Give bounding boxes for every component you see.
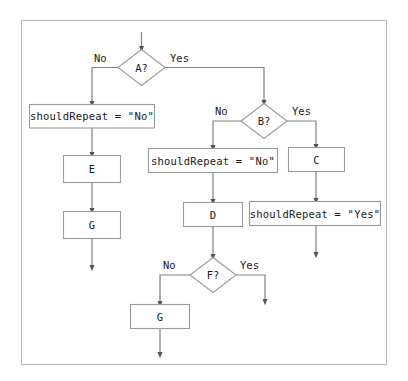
edge-label-a-no: No xyxy=(94,52,107,64)
shape-rect-g-left xyxy=(64,212,121,239)
edge-label-f-no: No xyxy=(163,259,176,271)
shape-rect-c xyxy=(289,148,345,172)
edge-label-b-no: No xyxy=(215,105,228,117)
shape-diamond-a xyxy=(118,50,165,86)
shape-rect-set-yes xyxy=(250,202,381,226)
flowchart-page: A? shouldRepeat = "No" E G B? shouldRepe… xyxy=(0,0,408,381)
edge-b-no xyxy=(213,121,241,148)
shape-diamond-f xyxy=(190,258,236,293)
shape-rect-set-no-left xyxy=(30,105,155,129)
edge-f-yes xyxy=(236,275,265,302)
shape-rect-d xyxy=(184,203,243,227)
shape-rect-g-bottom xyxy=(131,305,190,329)
edge-a-no xyxy=(92,68,118,105)
shape-diamond-b xyxy=(241,104,287,139)
shape-rect-set-no-mid xyxy=(149,149,278,173)
edge-label-f-yes: Yes xyxy=(240,259,259,271)
edge-group xyxy=(92,32,316,355)
edge-label-b-yes: Yes xyxy=(292,105,311,117)
edge-a-yes xyxy=(165,68,264,104)
node-shape-group xyxy=(30,50,381,329)
edge-b-yes xyxy=(287,121,316,147)
edge-f-no xyxy=(160,275,190,304)
shape-rect-e xyxy=(64,156,121,183)
edge-label-a-yes: Yes xyxy=(170,52,189,64)
flowchart-canvas xyxy=(0,0,408,381)
